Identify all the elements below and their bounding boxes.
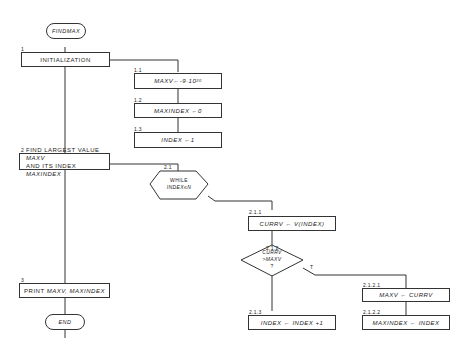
decision-label: CURRV >MAXV ? — [252, 249, 292, 270]
print-keyword: PRINT — [24, 287, 45, 295]
true-branch-label: T — [310, 264, 313, 270]
step-print: PRINT MAXV, MAXINDEX — [19, 283, 110, 298]
connector-init-to-1-1 — [110, 60, 178, 72]
decision-line-2: >MAXV — [252, 256, 292, 263]
while-label: WHILE INDEX≤N — [155, 177, 203, 191]
and-index-text: AND ITS INDEX — [26, 163, 76, 169]
step-maxv-init-exponent: 20 — [196, 77, 201, 85]
step-find-largest-line2: AND ITS INDEX MAXINDEX — [26, 162, 109, 178]
step-maxv-init: MAXV←-9·1020 — [134, 73, 222, 89]
step-maxindex-update: MAXINDEX ← INDEX — [362, 315, 450, 330]
while-keyword: WHILE — [155, 177, 203, 184]
maxv-var: MAXV — [26, 155, 45, 161]
step-index-init: INDEX ←1 — [134, 132, 222, 148]
step-maxv-init-text: MAXV←-9·10 — [154, 77, 196, 85]
step-number-2-1: 2.1 — [164, 164, 172, 170]
step-initialization: INITIALIZATION — [21, 52, 110, 67]
connector-2-1-to-2-1-1 — [208, 196, 272, 210]
step-find-largest-line1: FIND LARGEST VALUE MAXV — [26, 146, 109, 162]
print-args: MAXV, MAXINDEX — [47, 287, 105, 295]
connector-true-branch — [303, 268, 406, 288]
while-condition: INDEX≤N — [155, 184, 203, 191]
step-currv-assign: CURRV ← V(INDEX) — [248, 216, 336, 231]
maxindex-var: MAXINDEX — [26, 171, 61, 177]
decision-line-3: ? — [252, 263, 292, 270]
step-maxv-update: MAXV ← CURRV — [362, 288, 450, 302]
step-number-2-1-1: 2.1.1 — [249, 209, 262, 215]
step-index-increment: INDEX ← INDEX +1 — [248, 315, 336, 330]
end-terminal: END — [45, 314, 85, 330]
find-largest-text: FIND LARGEST VALUE — [26, 147, 99, 153]
step-find-largest: FIND LARGEST VALUE MAXV AND ITS INDEX MA… — [19, 153, 110, 170]
start-terminal: FINDMAX — [46, 23, 86, 39]
step-maxindex-init: MAXINDEX ←0 — [134, 103, 222, 118]
decision-line-1: CURRV — [252, 249, 292, 256]
